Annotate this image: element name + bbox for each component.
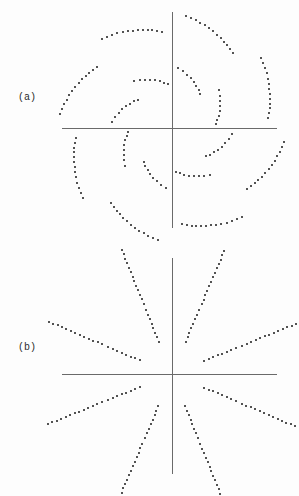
pattern-dot [144,437,146,439]
pattern-dot [152,419,154,421]
pattern-dot [279,151,281,153]
pattern-dot [273,332,275,334]
pattern-dot [101,401,103,403]
pattern-dot [156,336,158,338]
pattern-dot [212,356,214,358]
pattern-dot [210,470,212,472]
pattern-dot [191,225,193,227]
pattern-dot [203,175,205,177]
pattern-dot [188,175,190,177]
pattern-dot [257,179,259,181]
pattern-dot [271,164,273,166]
pattern-dot [156,30,158,32]
pattern-dot [262,62,264,64]
pattern-dot [126,479,128,481]
pattern-dot [261,176,263,178]
pattern-dot [107,399,109,401]
pattern-dot [186,410,188,412]
pattern-dot [74,86,76,88]
pattern-dot [218,263,220,265]
pattern-dot [263,412,265,414]
pattern-dot [220,259,222,261]
pattern-dot [281,420,283,422]
pattern-dot [123,154,125,156]
pattern-dot [268,414,270,416]
pattern-dot [139,447,141,449]
pattern-dot [96,66,98,68]
pattern-dot [250,185,252,187]
pattern-dot [134,357,136,359]
pattern-dot [209,154,211,156]
pattern-dot [291,325,293,327]
pattern-dot [177,67,179,69]
pattern-dot [74,142,76,144]
pattern-dot [88,72,90,74]
pattern-dot [154,79,156,81]
pattern-dot [214,272,216,274]
pattern-dot [112,397,114,399]
pattern-dot [209,466,211,468]
pattern-dot [254,408,256,410]
pattern-dot [138,230,140,232]
pattern-dot [241,345,243,347]
pattern-dot [132,465,134,467]
pattern-dot [69,414,71,416]
pattern-dot [129,103,131,105]
pattern-dot [193,175,195,177]
panel-a: (a) [0,0,299,248]
pattern-dot [193,428,195,430]
pattern-dot [133,280,135,282]
pattern-dot [65,328,67,330]
pattern-dot [212,30,214,32]
pattern-dot [203,299,205,301]
pattern-dot [101,343,103,345]
pattern-dot [268,83,270,85]
pattern-dot [134,227,136,229]
pattern-dot [106,36,108,38]
pattern-dot [130,356,132,358]
pattern-dot [212,475,214,477]
pattern-dot [107,346,109,348]
pattern-dot [199,93,201,95]
pattern-dot [139,79,141,81]
pattern-dot [121,249,123,251]
pattern-dot [121,492,123,494]
pattern-dot [122,217,124,219]
pattern-dot [283,141,285,143]
pattern-dot [199,22,201,24]
pattern-dot [139,386,141,388]
pattern-dot [126,135,128,137]
pattern-dot [269,107,271,109]
pattern-dot [205,225,207,227]
pattern-dot [116,32,118,34]
pattern-dot [155,410,157,412]
pattern-dot [221,353,223,355]
pattern-dot [201,303,203,305]
pattern-dot [250,341,252,343]
pattern-dot [114,116,116,118]
pattern-dot [122,31,124,33]
pattern-dot [150,423,152,425]
pattern-dot [286,326,288,328]
pattern-dot [276,155,278,157]
pattern-dot [277,418,279,420]
pattern-dot [152,327,154,329]
pattern-dot [186,74,188,76]
pattern-dot [182,70,184,72]
pattern-dot [231,220,233,222]
pattern-dot [60,418,62,420]
pattern-dot [267,117,269,119]
pattern-dot [216,119,218,121]
pattern-dot [199,443,201,445]
pattern-dot [122,487,124,489]
pattern-dot [264,172,266,174]
pattern-dot [134,388,136,390]
pattern-dot [76,182,78,184]
pattern-dot [88,338,90,340]
pattern-dot [78,187,80,189]
pattern-dot [183,174,185,176]
pattern-dot [235,400,237,402]
pattern-dot [123,144,125,146]
pattern-dot [165,187,167,189]
pattern-dot [152,237,154,239]
